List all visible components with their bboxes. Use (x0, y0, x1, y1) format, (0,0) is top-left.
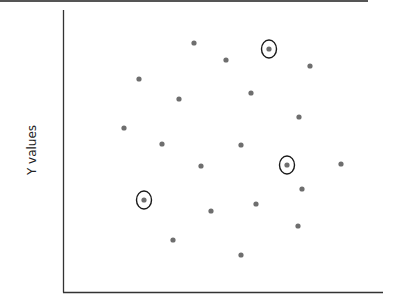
data-point (307, 63, 312, 68)
data-point (296, 114, 301, 119)
data-point (198, 163, 203, 168)
data-point (299, 186, 304, 191)
scatter-plot (0, 0, 399, 306)
data-point (136, 76, 141, 81)
data-point (159, 141, 164, 146)
data-point (176, 96, 181, 101)
highlighted-data-point (266, 46, 271, 51)
data-point (208, 208, 213, 213)
highlighted-data-point (141, 197, 146, 202)
data-points (121, 40, 343, 258)
data-point (121, 125, 126, 130)
data-point (238, 142, 243, 147)
highlighted-data-point (284, 162, 289, 167)
data-point (238, 252, 243, 257)
data-point (248, 90, 253, 95)
data-point (295, 223, 300, 228)
data-point (223, 57, 228, 62)
data-point (253, 201, 258, 206)
data-point (170, 237, 175, 242)
data-point (338, 161, 343, 166)
data-point (191, 40, 196, 45)
